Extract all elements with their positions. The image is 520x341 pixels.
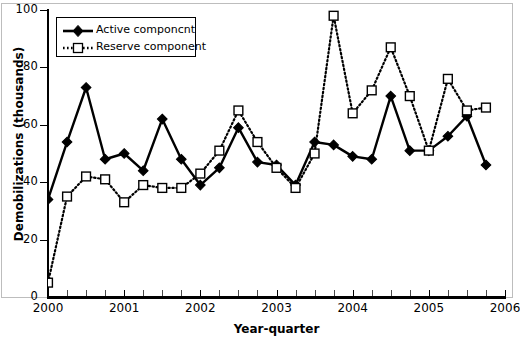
legend-key-active-line-diamond (62, 23, 94, 37)
data-point-marker-square (386, 43, 395, 52)
y-tick-mark (40, 67, 47, 68)
x-tick-minor (334, 290, 335, 296)
data-point-marker-square (101, 175, 110, 184)
legend-key-reserve-dotted-square (62, 40, 94, 54)
x-tick-minor (181, 290, 182, 296)
data-point-marker-square (463, 106, 472, 115)
x-tick-minor (391, 290, 392, 296)
x-tick-label: 2003 (261, 301, 292, 315)
y-tick-mark (40, 125, 47, 126)
data-point-marker-diamond (405, 146, 415, 156)
data-point-marker-square (48, 278, 52, 287)
x-tick-minor (296, 290, 297, 296)
x-tick-label: 2004 (337, 301, 368, 315)
legend-label-reserve: Reserve component (94, 40, 206, 53)
x-axis-title: Year-quarter (47, 322, 506, 336)
data-point-marker-diamond (100, 154, 110, 164)
x-tick-minor (219, 290, 220, 296)
data-point-marker-square (120, 198, 129, 207)
data-point-marker-diamond (81, 83, 91, 93)
x-tick-minor (467, 290, 468, 296)
legend-item-reserve: Reserve component (62, 38, 191, 55)
x-tick-minor (67, 290, 68, 296)
data-point-marker-square (139, 181, 148, 190)
data-point-marker-square (253, 138, 262, 147)
x-tick-minor (486, 290, 487, 296)
data-point-marker-square (405, 92, 414, 101)
x-tick-minor (410, 290, 411, 296)
data-point-marker-square (348, 109, 357, 118)
data-point-marker-square (234, 106, 243, 115)
x-tick-minor (315, 290, 316, 296)
y-tick-mark (40, 240, 47, 241)
data-point-marker-square (82, 172, 91, 181)
data-point-marker-square (177, 184, 186, 193)
series-line (48, 87, 486, 199)
data-point-marker-diamond (386, 91, 396, 101)
x-tick-minor (257, 290, 258, 296)
x-tick-major (48, 290, 49, 297)
legend-label-active: Active componcnt (94, 23, 195, 36)
data-point-marker-diamond (253, 157, 263, 167)
y-axis-title-wrap: Demobilizations (thousands) (0, 0, 1, 1)
data-point-marker-square (196, 169, 205, 178)
series-active-component (48, 83, 491, 205)
data-point-marker-square (367, 86, 376, 95)
data-point-marker-diamond (367, 154, 377, 164)
x-tick-minor (143, 290, 144, 296)
x-tick-label: 2005 (414, 301, 445, 315)
x-tick-minor (448, 290, 449, 296)
x-tick-label: 2001 (109, 301, 140, 315)
x-tick-label: 2000 (33, 301, 64, 315)
x-tick-major (353, 290, 354, 297)
data-point-marker-square (443, 74, 452, 83)
x-tick-major (429, 290, 430, 297)
x-tick-label: 2006 (490, 301, 520, 315)
data-point-marker-square (272, 163, 281, 172)
x-tick-minor (162, 290, 163, 296)
data-point-marker-diamond (481, 160, 491, 170)
x-tick-minor (105, 290, 106, 296)
data-point-marker-diamond (310, 137, 320, 147)
x-tick-major (505, 290, 506, 297)
chart-legend: Active componcnt Reserve component (56, 17, 196, 57)
x-tick-minor (86, 290, 87, 296)
data-point-marker-square (310, 149, 319, 158)
data-point-marker-diamond (234, 123, 244, 133)
data-point-marker-diamond (62, 137, 72, 147)
data-point-marker-square (329, 11, 338, 20)
y-tick-label: 100 (15, 2, 38, 16)
y-tick-mark (40, 182, 47, 183)
data-point-marker-square (291, 184, 300, 193)
data-point-marker-square (63, 192, 72, 201)
data-point-marker-diamond (48, 195, 53, 205)
y-axis-title: Demobilizations (thousands) (12, 34, 26, 254)
data-point-marker-square (424, 146, 433, 155)
y-tick-mark (40, 10, 47, 11)
x-tick-minor (238, 290, 239, 296)
x-tick-major (277, 290, 278, 297)
data-point-marker-square (215, 146, 224, 155)
data-point-marker-diamond (157, 114, 167, 124)
x-tick-minor (372, 290, 373, 296)
data-point-marker-square (482, 103, 491, 112)
legend-item-active: Active componcnt (62, 21, 191, 38)
x-tick-major (124, 290, 125, 297)
x-tick-label: 2002 (185, 301, 216, 315)
data-point-marker-square (158, 184, 167, 193)
x-tick-major (200, 290, 201, 297)
